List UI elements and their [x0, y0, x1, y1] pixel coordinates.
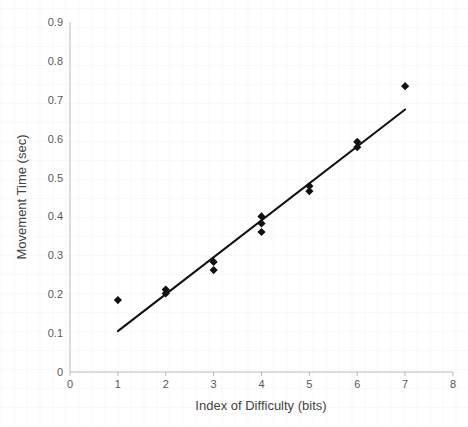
- x-tick-label: 1: [115, 378, 121, 390]
- y-tick-label: 0.4: [48, 210, 63, 222]
- y-tick-label: 0.6: [48, 133, 63, 145]
- y-tick-label: 0.1: [48, 327, 63, 339]
- x-tick-label: 4: [258, 378, 264, 390]
- x-tick-label: 2: [163, 378, 169, 390]
- y-tick-label: 0.7: [48, 94, 63, 106]
- y-tick-label: 0.9: [48, 16, 63, 28]
- x-tick-label: 6: [354, 378, 360, 390]
- x-tick-label: 8: [450, 378, 456, 390]
- y-tick-label: 0.3: [48, 249, 63, 261]
- x-tick-label: 7: [402, 378, 408, 390]
- y-tick-label: 0: [57, 366, 63, 378]
- y-axis-title: Movement Time (sec): [14, 135, 29, 260]
- x-tick-label: 3: [211, 378, 217, 390]
- y-tick-label: 0.8: [48, 55, 63, 67]
- x-tick-label: 0: [67, 378, 73, 390]
- x-tick-label: 5: [306, 378, 312, 390]
- chart-canvas: 00.10.20.30.40.50.60.70.80.9 012345678 I…: [0, 0, 468, 427]
- x-axis-title: Index of Difficulty (bits): [195, 398, 326, 413]
- y-tick-label: 0.2: [48, 288, 63, 300]
- y-tick-label: 0.5: [48, 172, 63, 184]
- scatter-chart: 00.10.20.30.40.50.60.70.80.9 012345678 I…: [0, 0, 468, 427]
